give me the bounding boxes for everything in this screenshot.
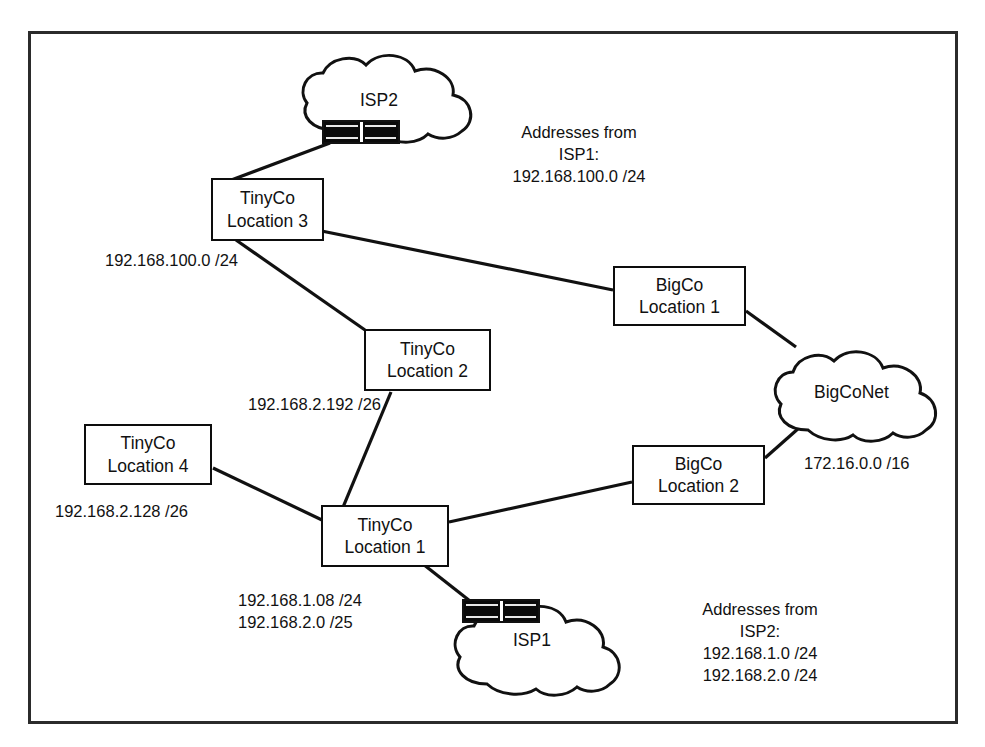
node-tinyco-location-1-line2: Location 1 (345, 536, 426, 558)
link-tinyco3-tinyco2 (236, 240, 365, 330)
node-tinyco-location-4[interactable]: TinyCo Location 4 (84, 424, 212, 485)
node-tinyco-location-1[interactable]: TinyCo Location 1 (321, 505, 449, 567)
node-tinyco-location-3[interactable]: TinyCo Location 3 (211, 178, 324, 241)
link-tinyco3-isp2 (226, 143, 330, 182)
router-isp1-icon[interactable] (462, 599, 540, 623)
link-tinyco4-tinyco1 (213, 468, 322, 520)
annotation-bigconet-subnet: 172.16.0.0 /16 (804, 452, 910, 474)
cloud-label-isp2: ISP2 (360, 90, 398, 111)
annotation-tinyco1-subnet-2: 192.168.2.0 /25 (238, 611, 353, 633)
annotation-isp2-addresses: Addresses from ISP2: 192.168.1.0 /24 192… (625, 598, 895, 686)
link-tinyco3-bigco1 (287, 224, 613, 290)
router-isp2-segment-right (363, 122, 399, 142)
network-diagram: TinyCo Location 3 BigCo Location 1 TinyC… (0, 0, 985, 747)
cloud-label-bigconet: BigCoNet (814, 382, 889, 403)
annotation-isp2-line3: 192.168.1.0 /24 (625, 642, 895, 664)
router-isp2-segment-left (324, 122, 363, 142)
annotation-isp1-line2: ISP1: (444, 143, 714, 165)
annotation-tinyco2-subnet: 192.168.2.192 /26 (248, 393, 381, 415)
node-tinyco-location-2[interactable]: TinyCo Location 2 (364, 329, 491, 391)
node-tinyco-location-3-line1: TinyCo (240, 187, 295, 209)
annotation-tinyco4-subnet: 192.168.2.128 /26 (55, 500, 188, 522)
annotation-isp2-line1: Addresses from (625, 598, 895, 620)
router-isp2-icon[interactable] (322, 120, 400, 144)
annotation-isp1-addresses: Addresses from ISP1: 192.168.100.0 /24 (444, 121, 714, 187)
node-bigco-location-1[interactable]: BigCo Location 1 (613, 266, 746, 326)
link-bigco1-bigconet (746, 311, 796, 347)
node-bigco-location-2-line2: Location 2 (658, 475, 739, 497)
node-tinyco-location-4-line1: TinyCo (121, 432, 176, 454)
node-tinyco-location-2-line2: Location 2 (387, 360, 468, 382)
cloud-label-isp1: ISP1 (513, 630, 551, 651)
node-bigco-location-2-line1: BigCo (675, 453, 723, 475)
router-isp1-segment-right (503, 601, 539, 621)
annotation-isp1-line3: 192.168.100.0 /24 (444, 165, 714, 187)
annotation-isp2-line2: ISP2: (625, 620, 895, 642)
node-tinyco-location-1-line1: TinyCo (358, 514, 413, 536)
annotation-tinyco1-subnet-1: 192.168.1.08 /24 (238, 589, 362, 611)
node-bigco-location-1-line2: Location 1 (639, 296, 720, 318)
annotation-isp2-line4: 192.168.2.0 /24 (625, 664, 895, 686)
annotation-tinyco3-subnet: 192.168.100.0 /24 (105, 249, 238, 271)
node-tinyco-location-3-line2: Location 3 (227, 210, 308, 232)
page-footnote (30, 731, 550, 747)
annotation-isp1-line1: Addresses from (444, 121, 714, 143)
node-tinyco-location-2-line1: TinyCo (400, 338, 455, 360)
link-tinyco1-bigco2 (449, 482, 632, 522)
router-isp1-segment-left (464, 601, 503, 621)
node-bigco-location-2[interactable]: BigCo Location 2 (632, 445, 765, 505)
node-tinyco-location-4-line2: Location 4 (108, 455, 189, 477)
node-bigco-location-1-line1: BigCo (656, 274, 704, 296)
